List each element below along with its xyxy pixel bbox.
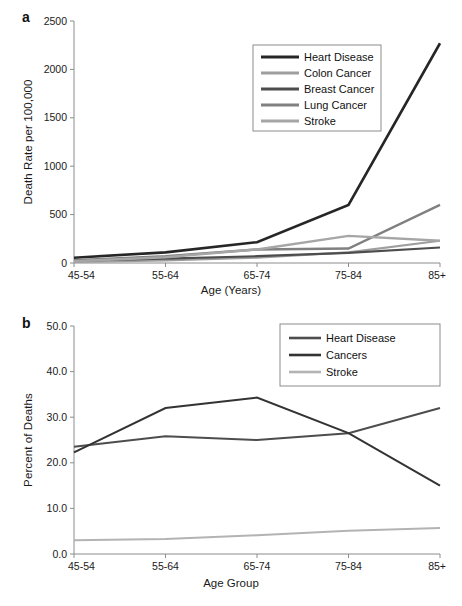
- y-tick-label: 2500: [44, 15, 68, 27]
- y-tick-label: 0.0: [52, 548, 67, 560]
- panel-a-plot: 0500100015002000250045-5455-6465-7475-84…: [0, 0, 462, 302]
- x-tick-label: 85+: [428, 560, 446, 572]
- legend-label-cancers: Cancers: [326, 349, 367, 361]
- y-tick-label: 20.0: [47, 456, 68, 468]
- y-tick-label: 50.0: [47, 320, 68, 332]
- series-line-heart-disease: [74, 408, 440, 447]
- x-tick-label: 85+: [428, 269, 446, 281]
- x-tick-label: 75-84: [335, 269, 362, 281]
- y-tick-label: 1000: [44, 160, 68, 172]
- y-tick-label: 30.0: [47, 411, 68, 423]
- panel-b: b Percent of Deaths Age Group 0.010.020.…: [0, 302, 462, 606]
- x-tick-label: 65-74: [244, 560, 271, 572]
- y-tick-label: 1500: [44, 111, 68, 123]
- figure-two-panel-chart: a Death Rate per 100,000 Age (Years) 050…: [0, 0, 462, 606]
- legend-label-colon-cancer: Colon Cancer: [304, 67, 372, 79]
- y-tick-label: 2000: [44, 63, 68, 75]
- legend-label-heart-disease: Heart Disease: [326, 332, 396, 344]
- x-tick-label: 45-54: [68, 269, 95, 281]
- y-tick-label: 0: [61, 257, 67, 269]
- y-tick-label: 500: [49, 208, 67, 220]
- x-tick-label: 45-54: [68, 560, 95, 572]
- panel-a: a Death Rate per 100,000 Age (Years) 050…: [0, 0, 462, 302]
- legend-label-lung-cancer: Lung Cancer: [304, 99, 367, 111]
- x-tick-label: 55-64: [152, 560, 179, 572]
- y-tick-label: 40.0: [47, 365, 68, 377]
- legend-label-stroke: Stroke: [304, 115, 336, 127]
- y-tick-label: 10.0: [47, 502, 68, 514]
- x-tick-label: 55-64: [152, 269, 179, 281]
- legend-label-breast-cancer: Breast Cancer: [304, 83, 375, 95]
- series-line-lung-cancer: [74, 205, 440, 260]
- series-line-stroke: [74, 528, 440, 540]
- panel-b-plot: 0.010.020.030.040.050.045-5455-6465-7475…: [0, 302, 462, 606]
- x-tick-label: 65-74: [244, 269, 271, 281]
- series-line-cancers: [74, 398, 440, 486]
- x-tick-label: 75-84: [335, 560, 362, 572]
- legend-label-heart-disease: Heart Disease: [304, 51, 374, 63]
- legend-label-stroke: Stroke: [326, 366, 358, 378]
